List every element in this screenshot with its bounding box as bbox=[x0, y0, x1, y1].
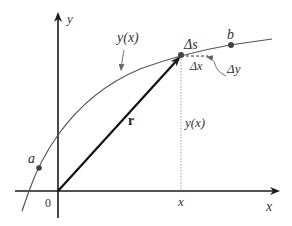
point-delta-s bbox=[178, 52, 184, 58]
position-vector-r bbox=[58, 58, 179, 191]
y-axis-label: y bbox=[65, 11, 73, 26]
point-a-label: a bbox=[28, 151, 35, 166]
point-b-label: b bbox=[227, 27, 234, 42]
curve-label-pointer bbox=[121, 50, 124, 70]
x-foot-label: x bbox=[177, 194, 184, 209]
delta-y-label: Δy bbox=[226, 61, 241, 76]
origin-label: 0 bbox=[45, 196, 51, 210]
point-a bbox=[36, 165, 42, 171]
delta-y-pointer bbox=[207, 57, 226, 76]
curve-label: y(x) bbox=[115, 30, 139, 46]
x-axis-label: x bbox=[265, 199, 273, 214]
height-label: y(x) bbox=[183, 115, 205, 130]
delta-s-label: Δs bbox=[183, 37, 198, 52]
vector-r-label: r bbox=[128, 113, 134, 128]
point-b bbox=[228, 42, 234, 48]
arc-length-diagram: y x 0 y(x) a b Δs Δx Δy r y(x) x bbox=[0, 0, 292, 226]
delta-x-label: Δx bbox=[189, 59, 203, 73]
